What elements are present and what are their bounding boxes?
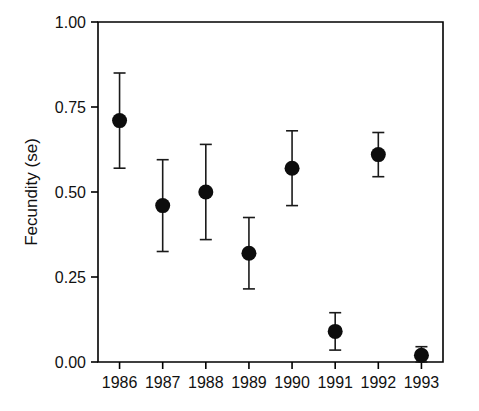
data-series (112, 73, 429, 363)
data-point-group (241, 218, 256, 289)
data-point-marker (155, 198, 170, 213)
data-point-marker (328, 324, 343, 339)
y-tick-label: 0.00 (55, 354, 86, 371)
x-axis-ticks: 19861987198819891990199119921993 (102, 362, 440, 391)
x-tick-label: 1993 (404, 374, 440, 391)
x-tick-label: 1988 (188, 374, 224, 391)
data-point-group (155, 160, 170, 252)
data-point-marker (371, 147, 386, 162)
data-point-marker (414, 348, 429, 363)
x-tick-label: 1991 (317, 374, 353, 391)
y-tick-label: 0.25 (55, 269, 86, 286)
x-tick-label: 1986 (102, 374, 138, 391)
y-tick-label: 1.00 (55, 14, 86, 31)
data-point-group (112, 73, 127, 168)
x-tick-label: 1987 (145, 374, 181, 391)
x-tick-label: 1990 (274, 374, 310, 391)
scatter-plot: 0.000.250.500.751.00 1986198719881989199… (0, 0, 479, 411)
data-point-marker (241, 246, 256, 261)
data-point-marker (112, 113, 127, 128)
y-axis-ticks: 0.000.250.500.751.00 (55, 14, 98, 371)
x-tick-label: 1989 (231, 374, 267, 391)
data-point-group (328, 313, 343, 350)
data-point-group (414, 347, 429, 363)
x-tick-label: 1992 (361, 374, 397, 391)
plot-frame (98, 22, 443, 362)
y-tick-label: 0.50 (55, 184, 86, 201)
y-tick-label: 0.75 (55, 99, 86, 116)
data-point-marker (285, 161, 300, 176)
data-point-group (198, 144, 213, 239)
data-point-group (285, 131, 300, 206)
figure-container: Fecundity (se) 0.000.250.500.751.00 1986… (0, 0, 479, 411)
axis-frame-rect (98, 22, 443, 362)
data-point-group (371, 133, 386, 177)
data-point-marker (198, 185, 213, 200)
